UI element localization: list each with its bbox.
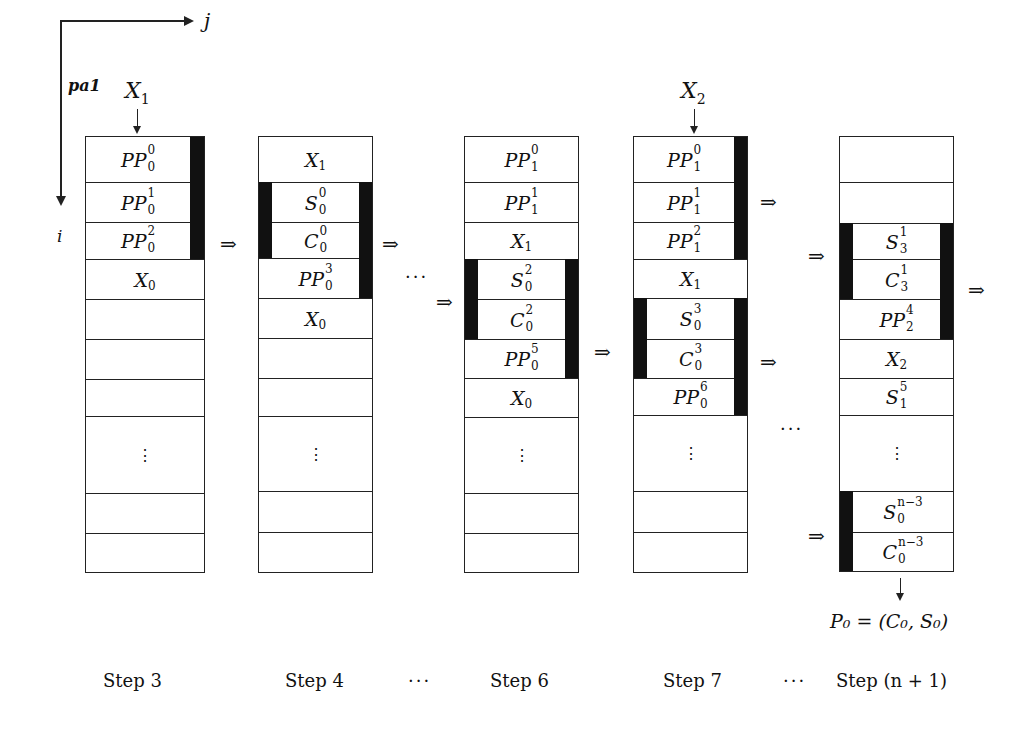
input-x2-arrowhead-icon [690, 126, 698, 134]
cell-ellipsis: ⋮ [634, 415, 747, 491]
cell [86, 533, 204, 573]
cell-ellipsis: ⋮ [840, 415, 953, 491]
implies-arrow-icon: ⇒ [594, 340, 611, 364]
j-axis-arrowhead-icon [184, 16, 194, 26]
cell [634, 491, 747, 532]
cell: PP00 [86, 137, 204, 182]
input-x1-arrowhead-icon [133, 126, 141, 134]
implies-arrow-icon: ⇒ [760, 190, 777, 214]
cell-ellipsis: ⋮ [465, 417, 578, 493]
cell: Sn−30 [840, 491, 953, 532]
cell: X0 [465, 378, 578, 417]
implies-arrow-icon: ⇒ [760, 350, 777, 374]
register-column-step-4: X1 S00 C00 PP30 X0 ⋮ [258, 136, 373, 573]
ellipsis: ··· [408, 670, 431, 691]
step-label: Step 3 [103, 670, 162, 691]
input-x2-label: X2 [681, 78, 706, 103]
cell: S13 [840, 223, 953, 259]
adder-bar-right [359, 182, 372, 298]
cell [259, 378, 372, 416]
adder-bar-bottom-left [840, 491, 853, 571]
adder-bar-left [259, 182, 272, 258]
implies-arrow-icon: ⇒ [808, 244, 825, 268]
cell-ellipsis: ⋮ [259, 416, 372, 491]
i-axis-arrowhead-icon [56, 196, 66, 206]
step-label: Step 4 [285, 670, 344, 691]
step-label: Step 7 [663, 670, 722, 691]
cell: PP11 [634, 182, 747, 222]
implies-arrow-icon: ⇒ [436, 290, 453, 314]
cell: X0 [259, 298, 372, 338]
cell: PP30 [259, 258, 372, 298]
cell: PP01 [465, 137, 578, 182]
cell: PP21 [634, 222, 747, 259]
ellipsis: ··· [783, 670, 806, 691]
cell [259, 491, 372, 532]
cell [86, 299, 204, 339]
adder-bar-left [465, 259, 478, 339]
j-axis-label: j [204, 9, 210, 33]
input-x1-label: X1 [125, 78, 150, 103]
register-column-step-n-plus-1: S13 C13 PP42 X2 S51 ⋮ Sn−30 Cn−30 [839, 136, 954, 572]
cell [840, 137, 953, 182]
cell: PP01 [634, 137, 747, 182]
cell: X1 [259, 137, 372, 182]
cell [86, 379, 204, 416]
adder-bar-right [565, 259, 578, 378]
register-column-step-3: PP00 PP10 PP20 X0 ⋮ [85, 136, 205, 573]
register-column-step-6: PP01 PP11 X1 S20 C20 PP50 X0 ⋮ [464, 136, 579, 573]
cell: Cn−30 [840, 532, 953, 571]
cell: C20 [465, 299, 578, 339]
pa-label: pa1 [68, 76, 101, 95]
output-arrowhead-icon [896, 593, 904, 601]
cell [840, 182, 953, 223]
ellipsis: ··· [405, 266, 428, 287]
cell [86, 493, 204, 533]
register-column-step-7: PP01 PP11 PP21 X1 S30 C30 PP60 ⋮ [633, 136, 748, 573]
cell: C00 [259, 222, 372, 258]
cell: S30 [634, 298, 747, 339]
cell [259, 532, 372, 573]
cell-ellipsis: ⋮ [86, 416, 204, 493]
cell [86, 339, 204, 379]
i-axis-label: i [57, 226, 62, 246]
adder-bar-right [940, 223, 953, 339]
output-label: P₀ = (C₀, S₀) [830, 610, 948, 632]
implies-arrow-icon: ⇒ [968, 278, 985, 302]
ellipsis: ··· [780, 418, 803, 439]
cell [634, 532, 747, 573]
cell [259, 338, 372, 378]
cell: X1 [465, 222, 578, 259]
implies-arrow-icon: ⇒ [382, 232, 399, 256]
cell: S00 [259, 182, 372, 222]
implies-arrow-icon: ⇒ [220, 232, 237, 256]
cell: C13 [840, 259, 953, 299]
cell [465, 533, 578, 573]
implies-arrow-icon: ⇒ [808, 524, 825, 548]
cell: X1 [634, 259, 747, 298]
cell: PP10 [86, 182, 204, 222]
step-label: Step (n + 1) [836, 670, 947, 691]
adder-bar-right [734, 298, 747, 415]
cell: PP60 [634, 378, 747, 415]
cell [465, 493, 578, 533]
cell: X0 [86, 259, 204, 299]
i-axis-line [60, 20, 62, 200]
cell: X2 [840, 339, 953, 378]
cell: S20 [465, 259, 578, 299]
j-axis-line [60, 20, 188, 22]
adder-bar-left [840, 223, 853, 299]
cell: C30 [634, 339, 747, 378]
cell: PP11 [465, 182, 578, 222]
cell: S51 [840, 378, 953, 415]
cell: PP50 [465, 339, 578, 378]
adder-bar-right-top [734, 137, 747, 259]
step-label: Step 6 [490, 670, 549, 691]
cell: PP42 [840, 299, 953, 339]
adder-bar [190, 137, 204, 259]
adder-bar-left [634, 298, 647, 378]
cell: PP20 [86, 222, 204, 259]
